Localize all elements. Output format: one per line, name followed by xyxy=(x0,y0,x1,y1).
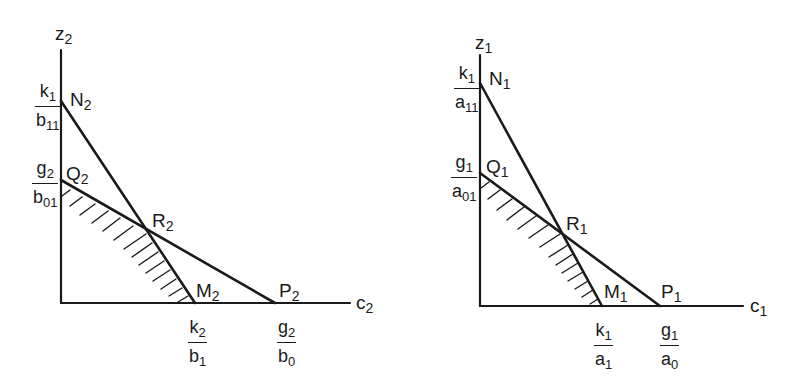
left-hatching xyxy=(62,190,188,302)
right-line-NM xyxy=(480,83,602,306)
axis-var: z xyxy=(475,32,485,53)
denominator: b1 xyxy=(188,347,207,368)
num-sub: 1 xyxy=(468,71,475,86)
left-c-axis-label: c2 xyxy=(356,293,373,315)
point-name: N xyxy=(70,89,84,110)
intercept-Q1-fraction: g1 a01 xyxy=(451,153,477,203)
point-name: P xyxy=(661,281,674,302)
den-var: a xyxy=(452,181,462,201)
point-name: P xyxy=(279,280,292,301)
den-var: b xyxy=(36,110,46,130)
point-name: N xyxy=(489,68,503,89)
num-var: g xyxy=(37,158,47,178)
point-sub: 2 xyxy=(212,288,220,304)
den-var: a xyxy=(595,349,605,369)
point-sub: 1 xyxy=(501,164,509,180)
num-var: g xyxy=(456,152,466,172)
intercept-M2-fraction: k2 b1 xyxy=(188,318,207,368)
num-sub: 2 xyxy=(47,166,54,181)
numerator: k1 xyxy=(595,321,613,342)
right-c-axis-label: c1 xyxy=(750,296,767,318)
denominator: a11 xyxy=(454,93,480,114)
point-sub: 2 xyxy=(84,97,92,113)
num-var: k xyxy=(40,81,49,101)
num-sub: 1 xyxy=(49,89,56,104)
den-sub: 0 xyxy=(288,354,295,369)
intercept-N2-fraction: k1 b11 xyxy=(35,82,61,132)
den-var: b xyxy=(33,187,43,207)
fraction-bar xyxy=(188,342,207,343)
den-sub: 1 xyxy=(199,354,206,369)
point-name: Q xyxy=(66,163,81,184)
fraction-bar xyxy=(277,342,296,343)
numerator: k1 xyxy=(39,82,57,103)
point-sub: 1 xyxy=(503,76,511,92)
point-label-Q2: Q2 xyxy=(66,164,89,186)
axis-sub: 1 xyxy=(485,40,493,56)
numerator: g1 xyxy=(660,321,679,342)
point-name: M xyxy=(604,281,620,302)
axis-sub: 1 xyxy=(760,303,768,319)
intercept-P1-fraction: g1 a0 xyxy=(660,321,679,371)
point-name: M xyxy=(196,280,212,301)
denominator: b01 xyxy=(32,188,58,209)
denominator: a1 xyxy=(594,350,613,371)
right-z-axis-label: z1 xyxy=(475,33,492,55)
num-var: k xyxy=(190,317,199,337)
point-sub: 2 xyxy=(166,218,174,234)
left-figure xyxy=(61,50,350,303)
fraction-bar xyxy=(454,88,480,89)
axis-sub: 2 xyxy=(65,31,73,47)
intercept-N1-fraction: k1 a11 xyxy=(454,64,480,114)
fraction-bar xyxy=(35,106,61,107)
numerator: k1 xyxy=(458,64,476,85)
denominator: b11 xyxy=(35,111,61,132)
num-var: k xyxy=(459,63,468,83)
num-var: g xyxy=(661,320,671,340)
point-sub: 2 xyxy=(292,288,300,304)
num-sub: 1 xyxy=(671,328,678,343)
fraction-bar xyxy=(451,177,477,178)
point-sub: 1 xyxy=(674,289,682,305)
den-sub: 11 xyxy=(465,100,479,115)
den-sub: 01 xyxy=(462,189,476,204)
num-var: g xyxy=(278,317,288,337)
point-label-R2: R2 xyxy=(152,211,174,233)
denominator: a01 xyxy=(451,182,477,203)
point-name: Q xyxy=(486,156,501,177)
den-var: a xyxy=(455,92,465,112)
point-label-P2: P2 xyxy=(279,281,299,303)
numerator: g1 xyxy=(455,153,474,174)
num-sub: 2 xyxy=(288,325,295,340)
axis-var: c xyxy=(750,295,760,316)
den-sub: 1 xyxy=(605,357,612,372)
point-sub: 2 xyxy=(81,171,89,187)
point-label-R1: R1 xyxy=(566,214,588,236)
left-line-NM xyxy=(61,101,195,303)
num-sub: 1 xyxy=(466,160,473,175)
den-sub: 01 xyxy=(43,195,57,210)
den-var: a xyxy=(661,349,671,369)
den-sub: 11 xyxy=(46,118,60,133)
fraction-bar xyxy=(32,183,58,184)
right-figure xyxy=(480,55,743,306)
denominator: a0 xyxy=(660,350,679,371)
den-var: b xyxy=(189,346,199,366)
intercept-M1-fraction: k1 a1 xyxy=(594,321,613,371)
denominator: b0 xyxy=(277,347,296,368)
point-name: R xyxy=(152,210,166,231)
den-var: b xyxy=(278,346,288,366)
axis-var: c xyxy=(356,292,366,313)
num-sub: 1 xyxy=(605,328,612,343)
right-hatching xyxy=(481,182,598,304)
den-sub: 0 xyxy=(671,357,678,372)
intercept-Q2-fraction: g2 b01 xyxy=(32,159,58,209)
axis-var: z xyxy=(55,23,65,44)
intercept-P2-fraction: g2 b0 xyxy=(277,318,296,368)
point-sub: 1 xyxy=(580,221,588,237)
point-label-M2: M2 xyxy=(196,281,220,303)
numerator: g2 xyxy=(277,318,296,339)
fraction-bar xyxy=(660,345,679,346)
right-line-QP xyxy=(480,173,660,306)
axis-sub: 2 xyxy=(366,300,374,316)
